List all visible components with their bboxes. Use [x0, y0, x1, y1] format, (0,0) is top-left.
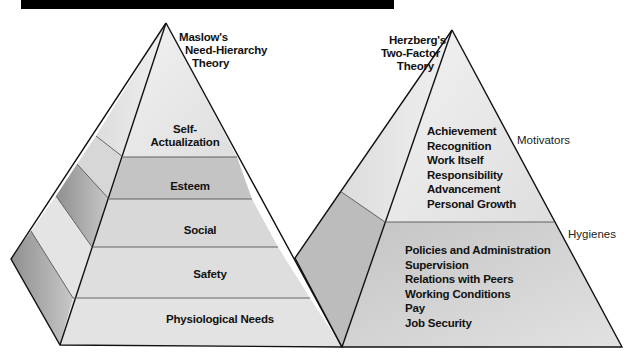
maslow-level-social: Social	[150, 224, 250, 237]
hygiene-item: Relations with Peers	[405, 272, 551, 287]
maslow-layer-social	[92, 199, 278, 247]
self-actualization-line1: Self-	[140, 123, 230, 136]
maslow-title-line1: Maslow's	[179, 31, 267, 44]
self-actualization-line2: Actualization	[140, 136, 230, 149]
hygiene-item: Job Security	[405, 316, 551, 331]
maslow-level-safety: Safety	[160, 268, 260, 281]
motivator-item: Advancement	[427, 182, 516, 197]
herzberg-title-line1: Herzberg's	[376, 34, 446, 47]
herzberg-title: Herzberg's Two-Factor Theory	[376, 34, 446, 73]
maslow-level-self-actualization: Self- Actualization	[140, 123, 230, 149]
motivator-item: Work Itself	[427, 153, 516, 168]
maslow-title-line2: Need-Hierarchy	[179, 44, 267, 57]
motivators-list: Achievement Recognition Work Itself Resp…	[427, 124, 516, 212]
motivator-item: Achievement	[427, 124, 516, 139]
hygienes-list: Policies and Administration Supervision …	[405, 243, 551, 331]
hygiene-item: Supervision	[405, 258, 551, 273]
motivators-label: Motivators	[517, 134, 570, 146]
maslow-level-esteem: Esteem	[140, 180, 240, 193]
hygiene-item: Pay	[405, 301, 551, 316]
maslow-title: Maslow's Need-Hierarchy Theory	[179, 31, 267, 70]
motivator-item: Personal Growth	[427, 197, 516, 212]
hygienes-label: Hygienes	[568, 228, 616, 240]
herzberg-title-line2: Two-Factor	[376, 47, 446, 60]
hygiene-item: Policies and Administration	[405, 243, 551, 258]
maslow-title-line3: Theory	[179, 57, 267, 70]
motivator-item: Recognition	[427, 139, 516, 154]
maslow-level-physiological: Physiological Needs	[150, 313, 290, 326]
hygiene-item: Working Conditions	[405, 287, 551, 302]
herzberg-title-line3: Theory	[376, 60, 446, 73]
motivator-item: Responsibility	[427, 168, 516, 183]
